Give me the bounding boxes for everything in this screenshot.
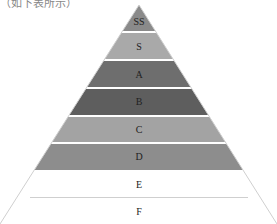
tier-label-b: B (136, 96, 143, 107)
tier-label-e: E (136, 179, 142, 190)
tier-label-d: D (135, 151, 142, 162)
tier-label-s: S (136, 41, 142, 52)
pyramid-diagram: SS S A B C D E F (0, 0, 277, 224)
tier-label-a: A (135, 69, 143, 80)
tier-label-c: C (136, 124, 143, 135)
tier-label-ss: SS (133, 16, 144, 27)
tier-label-f: F (136, 206, 142, 217)
